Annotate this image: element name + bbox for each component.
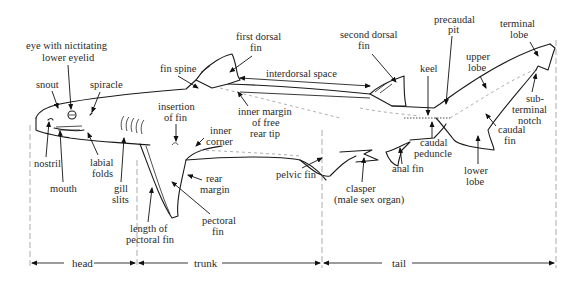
svg-text:fin: fin: [212, 226, 224, 237]
svg-text:labial: labial: [90, 157, 113, 168]
ventral-head: [36, 118, 150, 145]
label-inner-margin: inner margin of free rear tip: [238, 92, 293, 139]
label-inner-corner: inner corner: [196, 125, 233, 147]
clasper-shape: [340, 150, 378, 162]
svg-text:upper: upper: [466, 51, 490, 62]
svg-text:caudal: caudal: [498, 124, 525, 135]
svg-text:of fin: of fin: [164, 112, 188, 123]
shark-anatomy-diagram: head trunk tail eye with nictitating low…: [0, 0, 577, 282]
mouth-shape: [54, 128, 84, 131]
svg-text:lower eyelid: lower eyelid: [42, 52, 95, 63]
svg-text:snout: snout: [36, 79, 59, 90]
svg-text:corner: corner: [206, 136, 233, 147]
svg-text:second dorsal: second dorsal: [340, 29, 398, 40]
label-lower-lobe: lower lobe: [464, 136, 488, 187]
svg-text:nostril: nostril: [34, 158, 61, 169]
svg-text:margin: margin: [200, 184, 230, 195]
svg-text:pelvic fin: pelvic fin: [276, 169, 317, 180]
label-insertion-of-fin: insertion of fin: [158, 101, 195, 141]
svg-text:first dorsal: first dorsal: [236, 31, 281, 42]
svg-text:fin: fin: [250, 42, 262, 53]
svg-text:clasper: clasper: [346, 183, 376, 194]
label-subterminal-notch: sub- terminal notch: [512, 74, 547, 126]
svg-text:caudal: caudal: [420, 137, 447, 148]
fin-spine-shape: [196, 66, 210, 80]
svg-text:peduncle: peduncle: [414, 148, 452, 159]
svg-text:fin: fin: [504, 135, 516, 146]
svg-text:gill: gill: [114, 183, 128, 194]
svg-text:keel: keel: [420, 63, 438, 74]
svg-text:lobe: lobe: [510, 29, 528, 40]
nostril-shape: [48, 119, 53, 121]
second-dorsal-fin-shape: [370, 76, 406, 106]
svg-text:fin: fin: [358, 40, 370, 51]
label-pelvic-fin: pelvic fin: [276, 158, 322, 180]
svg-text:lower: lower: [464, 165, 488, 176]
svg-text:interdorsal space: interdorsal space: [266, 68, 337, 79]
label-caudal-peduncle: caudal peduncle: [414, 122, 452, 159]
svg-text:length of: length of: [130, 223, 168, 234]
first-dorsal-fin-shape: [196, 54, 240, 88]
label-first-dorsal-fin: first dorsal fin: [230, 31, 281, 72]
svg-text:insertion: insertion: [158, 101, 195, 112]
label-fin-spine: fin spine: [160, 63, 198, 88]
label-snout: snout: [36, 79, 59, 108]
svg-text:pit: pit: [448, 24, 459, 35]
svg-text:lobe: lobe: [466, 176, 484, 187]
label-length-of-pectoral-fin: length of pectoral fin: [126, 188, 175, 245]
svg-text:eye with nictitating: eye with nictitating: [26, 40, 108, 51]
svg-text:mouth: mouth: [50, 183, 78, 194]
label-second-dorsal-fin: second dorsal fin: [340, 29, 398, 82]
svg-text:anal fin: anal fin: [392, 163, 425, 174]
svg-text:terminal: terminal: [512, 104, 547, 115]
region-label-trunk: trunk: [194, 257, 218, 269]
svg-text:spiracle: spiracle: [90, 79, 123, 90]
label-interdorsal-space: interdorsal space: [266, 68, 337, 79]
svg-text:fin spine: fin spine: [160, 63, 197, 74]
label-gill-slits: gill slits: [112, 138, 129, 205]
svg-text:lobe: lobe: [468, 62, 486, 73]
label-upper-lobe: upper lobe: [466, 51, 490, 88]
svg-text:pectoral: pectoral: [202, 215, 236, 226]
gill-slits-shape: [121, 116, 144, 134]
region-dimension-lines: head trunk tail: [32, 257, 554, 269]
region-label-tail: tail: [392, 257, 406, 269]
svg-text:inner margin: inner margin: [238, 106, 293, 117]
svg-text:rear: rear: [206, 173, 223, 184]
svg-text:of free: of free: [252, 117, 280, 128]
svg-text:rear tip: rear tip: [250, 128, 280, 139]
svg-text:folds: folds: [92, 168, 113, 179]
svg-text:terminal: terminal: [500, 18, 535, 29]
svg-text:(male sex organ): (male sex organ): [334, 194, 405, 206]
svg-text:slits: slits: [112, 194, 129, 205]
region-label-head: head: [72, 257, 93, 269]
svg-text:sub-: sub-: [526, 93, 545, 104]
label-rear-margin: rear margin: [188, 173, 230, 195]
svg-text:inner: inner: [210, 125, 232, 136]
spiracle-shape: [90, 113, 92, 115]
svg-text:pectoral fin: pectoral fin: [126, 234, 175, 245]
insertion-curl: [172, 143, 178, 145]
